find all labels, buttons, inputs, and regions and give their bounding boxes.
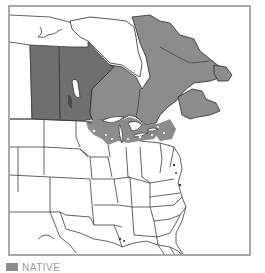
legend: NATIVE [6, 263, 60, 273]
region-newfoundland [214, 65, 232, 81]
legend-swatch-native [6, 263, 18, 271]
legend-label-native: NATIVE [22, 263, 60, 272]
range-map [8, 5, 251, 256]
region-maritimes [178, 89, 220, 119]
north-america-map [10, 7, 251, 256]
great-lakes-shading [86, 117, 176, 145]
